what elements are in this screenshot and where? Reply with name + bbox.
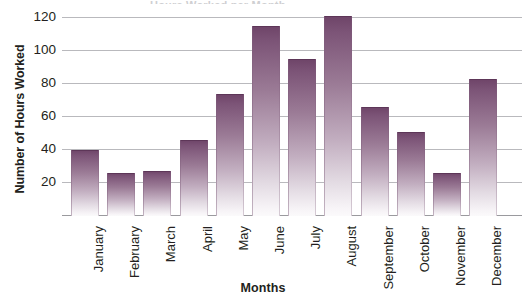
bar[interactable] <box>469 79 497 216</box>
y-axis-tick-label: 80 <box>22 76 56 89</box>
chart-title-clipped: Hours Worked per Month <box>150 0 380 4</box>
y-axis-tick-label: 100 <box>22 43 56 56</box>
bar[interactable] <box>397 132 425 216</box>
bar[interactable] <box>180 140 208 216</box>
bar[interactable] <box>143 171 171 216</box>
bar[interactable] <box>71 150 99 216</box>
y-axis-tick-label: 120 <box>22 10 56 23</box>
y-axis-tick-label: 60 <box>22 109 56 122</box>
bar[interactable] <box>361 107 389 216</box>
bar[interactable] <box>324 16 352 216</box>
y-axis-tick-label: 40 <box>22 142 56 155</box>
bar[interactable] <box>288 59 316 216</box>
bar[interactable] <box>433 173 461 216</box>
bar-chart: Hours Worked per Month Number of Hours W… <box>0 0 526 304</box>
bar[interactable] <box>216 94 244 216</box>
x-axis-title: Months <box>0 281 526 295</box>
y-axis-tick-label: 20 <box>22 175 56 188</box>
bar[interactable] <box>252 26 280 216</box>
plot-area: 20406080100120 JanuaryFebruaryMarchApril… <box>62 6 522 216</box>
bar-series <box>62 6 522 216</box>
bar[interactable] <box>107 173 135 216</box>
